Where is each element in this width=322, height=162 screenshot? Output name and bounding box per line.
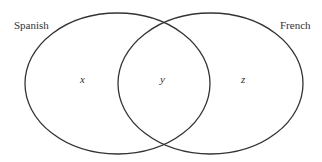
region-y-label: y xyxy=(160,74,165,85)
spanish-set-label: Spanish xyxy=(14,20,49,31)
region-z-label: z xyxy=(241,74,245,85)
region-x-label: x xyxy=(80,74,85,85)
french-set-label: French xyxy=(280,20,311,31)
